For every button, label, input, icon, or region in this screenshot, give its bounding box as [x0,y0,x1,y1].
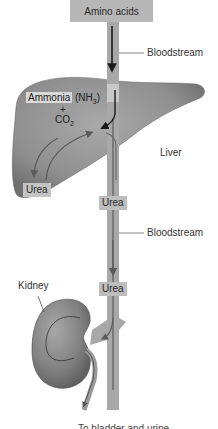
diagram-artwork [0,0,218,429]
ammonia-formula: (NH [75,92,93,103]
urea-liver-label: Urea [23,183,51,197]
ammonia-close-paren: ) [97,92,100,103]
amino-acids-label: Amino acids [84,6,138,17]
urea-vessel-label-1: Urea [99,196,127,210]
renal-branch [90,320,107,345]
co2-subscript: 2 [70,120,74,127]
co2-text: CO [55,114,70,125]
bloodstream-top-label: Bloodstream [147,47,203,59]
co2-label: CO2 [55,114,74,127]
amino-acids-box: Amino acids [70,0,153,22]
bottom-truncated-label: To bladder and urine [78,423,169,429]
kidney-label: Kidney [18,280,49,292]
kidney-leader [38,296,44,312]
urea-cycle-diagram: Amino acids Bloodstream Ammonia (NH3) + … [0,0,218,429]
urea-vessel-label-2: Urea [99,282,127,296]
bloodstream-bottom-label: Bloodstream [147,227,203,239]
ammonia-text: Ammonia [26,92,72,103]
kidney-shape [32,299,90,388]
liver-label: Liver [160,147,182,159]
